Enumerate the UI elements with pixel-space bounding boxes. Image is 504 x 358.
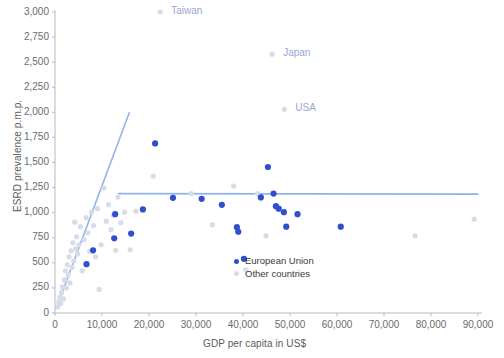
legend-swatch-icon (234, 259, 239, 264)
data-point (75, 251, 80, 256)
data-point (78, 224, 83, 229)
data-point (122, 210, 127, 215)
data-point (170, 195, 176, 201)
data-point (85, 230, 90, 235)
data-point (189, 191, 194, 196)
data-point (93, 254, 98, 259)
data-point (98, 242, 103, 247)
y-axis-title: ESRD prevalence p.m.p. (12, 100, 23, 212)
data-point (111, 235, 117, 241)
data-point (128, 230, 134, 236)
data-point (283, 224, 289, 230)
data-point (71, 258, 76, 263)
data-point (235, 229, 241, 235)
data-point (104, 219, 109, 224)
data-point (412, 233, 417, 238)
data-point (95, 206, 100, 211)
data-point (282, 107, 287, 112)
data-point (70, 240, 75, 245)
data-point (89, 210, 94, 215)
chart-legend: European UnionOther countries (234, 255, 314, 280)
data-point (83, 215, 88, 220)
y-tick-label: 1,500 (4, 156, 49, 167)
data-point (62, 277, 67, 282)
data-point (270, 52, 275, 57)
data-point (210, 222, 215, 227)
legend-label: European Union (245, 255, 314, 268)
data-point (263, 233, 268, 238)
data-point (113, 248, 118, 253)
y-tick-label: 1,000 (4, 206, 49, 217)
data-point (231, 183, 236, 188)
data-point (69, 265, 74, 270)
data-point (72, 220, 77, 225)
data-point (90, 247, 96, 253)
y-tick-label: 500 (4, 256, 49, 267)
data-point (91, 223, 96, 228)
data-point (128, 247, 133, 252)
data-point (73, 246, 78, 251)
y-tick-label: 0 (4, 307, 49, 318)
data-point (68, 248, 73, 253)
annotation-taiwan: Taiwan (171, 5, 202, 16)
y-tick-label: 250 (4, 281, 49, 292)
data-point (219, 202, 225, 208)
data-point (106, 202, 111, 207)
legend-swatch-icon (234, 271, 239, 276)
data-point (140, 206, 146, 212)
legend-item: Other countries (234, 268, 314, 281)
data-point (82, 237, 87, 242)
data-point (67, 280, 72, 285)
data-point (80, 268, 85, 273)
y-tick-label: 2,000 (4, 106, 49, 117)
annotation-usa: USA (295, 102, 316, 113)
y-tick-label: 1,750 (4, 131, 49, 142)
plot-canvas (0, 0, 504, 358)
legend-item: European Union (234, 255, 314, 268)
data-point (133, 209, 138, 214)
data-point (258, 194, 264, 200)
data-point (58, 301, 63, 306)
data-point (97, 287, 102, 292)
data-point (265, 164, 271, 170)
data-point (115, 195, 120, 200)
european-union-point-group (83, 140, 343, 267)
y-tick-label: 2,750 (4, 31, 49, 42)
data-point (276, 206, 282, 212)
data-point (76, 242, 81, 247)
data-point (65, 262, 70, 267)
legend-label: Other countries (245, 268, 310, 281)
data-point (270, 191, 276, 197)
data-point (108, 227, 113, 232)
trend-line-plateau-segment (118, 194, 478, 195)
data-point (199, 196, 205, 202)
data-point (281, 209, 287, 215)
y-tick-label: 750 (4, 231, 49, 242)
data-point (64, 285, 69, 290)
y-tick-label: 2,250 (4, 81, 49, 92)
data-point (118, 220, 123, 225)
data-point (294, 211, 300, 217)
data-point (61, 296, 66, 301)
data-point (151, 173, 156, 178)
data-point (101, 185, 106, 190)
data-point (83, 261, 89, 267)
data-point (152, 140, 158, 146)
data-point (472, 217, 477, 222)
x-tick-label: 90,000 (448, 319, 504, 330)
y-tick-label: 3,000 (4, 6, 49, 17)
data-point (158, 9, 163, 14)
data-point (66, 272, 71, 277)
data-point (74, 234, 79, 239)
y-tick-label: 1,250 (4, 181, 49, 192)
x-axis-title: GDP per capita in US$ (203, 338, 306, 349)
data-point (59, 290, 64, 295)
data-point (67, 254, 72, 259)
scatter-chart: 02505007501,0001,2501,5001,7502,0002,250… (0, 0, 504, 358)
data-point (338, 224, 344, 230)
data-point (112, 211, 118, 217)
annotation-japan: Japan (283, 47, 310, 58)
y-tick-label: 2,500 (4, 56, 49, 67)
